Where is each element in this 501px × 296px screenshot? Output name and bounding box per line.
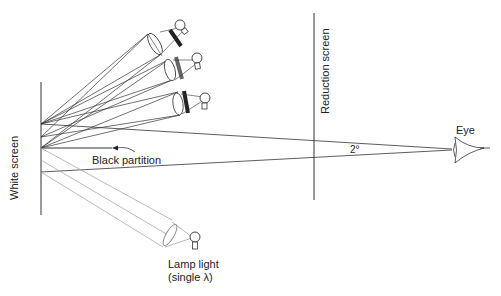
partition-arrow	[116, 148, 135, 153]
reduction-screen-label: Reduction screen	[319, 28, 332, 114]
eye-icon	[454, 137, 491, 163]
test-lamp	[161, 222, 200, 249]
lamp-light-label: Lamp light	[168, 258, 219, 271]
arrow-head-icon	[112, 146, 118, 151]
single-wavelength-label: (single λ)	[168, 271, 213, 284]
lens-icon	[172, 92, 185, 115]
lens-icon	[145, 31, 166, 57]
bulb-icon	[192, 53, 202, 63]
primary-lamp-1	[145, 20, 189, 57]
bulb-icon	[200, 93, 210, 103]
white-screen-label: White screen	[8, 136, 21, 200]
eye-label: Eye	[456, 124, 475, 137]
angle-label: 2°	[350, 143, 360, 156]
lens-icon	[161, 223, 180, 248]
primary-lamp-3	[172, 91, 210, 116]
primary-lamp-2	[162, 53, 202, 82]
black-partition-label: Black partition	[92, 154, 161, 167]
colorimetry-diagram	[0, 0, 501, 296]
bulb-icon	[190, 232, 200, 242]
filter-dark	[170, 30, 181, 46]
sight-line-upper	[41, 124, 452, 149]
